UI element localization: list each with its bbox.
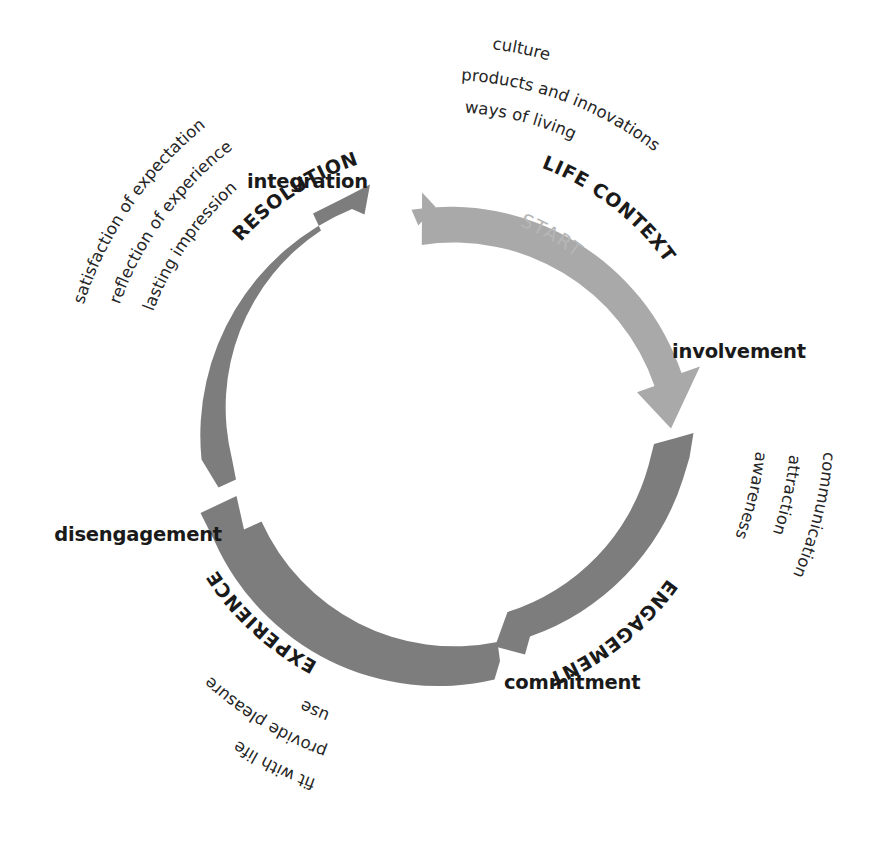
descriptor-experience-1: use: [297, 697, 332, 726]
node-label-involvement: involvement: [672, 340, 806, 363]
descriptor-resolution-1-text: lasting impression: [139, 178, 240, 314]
node-label-integration: integration: [247, 170, 368, 193]
descriptor-engagement-1-text: awareness: [731, 451, 770, 542]
descriptor-experience-1-text: use: [297, 697, 332, 726]
descriptor-engagement-2-text: attraction: [769, 454, 805, 538]
arc-engagement: [495, 433, 694, 655]
arc-experience: [201, 496, 501, 686]
descriptor-life-context-3: culture: [491, 34, 552, 64]
arc-resolution: [200, 185, 370, 488]
phase-label-resolution-text: RESOLUTION: [228, 147, 361, 245]
descriptor-resolution-1: lasting impression: [139, 178, 240, 314]
descriptor-engagement-1: awareness: [731, 451, 770, 542]
diagram-canvas: START LIFE CONTEXT ENGAGEMENT EXPERIENCE…: [0, 0, 872, 867]
phase-label-resolution: RESOLUTION: [228, 147, 361, 245]
descriptor-resolution-3: satisfaction of expectation: [69, 115, 208, 306]
cycle-diagram: START LIFE CONTEXT ENGAGEMENT EXPERIENCE…: [0, 0, 872, 867]
descriptor-resolution-3-text: satisfaction of expectation: [69, 115, 208, 306]
node-label-commitment: commitment: [504, 671, 640, 694]
descriptor-engagement-2: attraction: [769, 454, 805, 538]
descriptor-life-context-3-text: culture: [491, 34, 552, 64]
node-label-disengagement: disengagement: [54, 523, 222, 546]
